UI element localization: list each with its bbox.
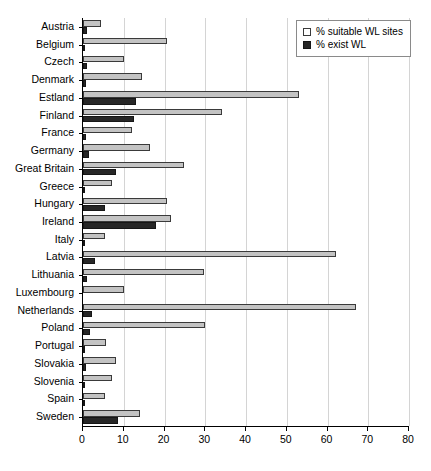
x-tick-label: 60 [321, 433, 333, 445]
category-label: Estland [39, 92, 74, 103]
bar-exist-wl [83, 222, 156, 228]
bar-exist-wl [83, 311, 92, 317]
bar-exist-wl [83, 276, 87, 282]
horizontal-bar-chart: AustriaBelgiumCzechDenmarkEstlandFinland… [0, 0, 431, 471]
bar-exist-wl [83, 98, 136, 104]
category-label: France [41, 127, 74, 138]
bar-group [83, 284, 409, 302]
bar-exist-wl [83, 258, 95, 264]
bar-exist-wl [83, 205, 105, 211]
x-tick-0 [82, 427, 83, 431]
chart-legend: % suitable WL sites % exist WL [296, 20, 411, 57]
bar-exist-wl [83, 400, 85, 406]
x-axis: 01020304050607080 [82, 427, 409, 451]
category-label: Netherlands [17, 305, 74, 316]
bar-suitable-wl-sites [83, 286, 124, 292]
category-label: Greece [40, 181, 74, 192]
bar-suitable-wl-sites [83, 73, 142, 79]
bar-suitable-wl-sites [83, 56, 124, 62]
x-tick-label: 40 [239, 433, 251, 445]
bar-group [83, 373, 409, 391]
bar-exist-wl [83, 169, 116, 175]
bar-group [83, 213, 409, 231]
bar-exist-wl [83, 151, 89, 157]
bar-exist-wl [83, 364, 86, 370]
category-label: Slovenia [34, 376, 74, 387]
bar-suitable-wl-sites [83, 180, 112, 186]
bar-group [83, 124, 409, 142]
category-label: Latvia [46, 251, 74, 262]
x-tick-30 [204, 427, 205, 431]
bar-exist-wl [83, 382, 85, 388]
bar-group [83, 142, 409, 160]
bar-suitable-wl-sites [83, 410, 140, 416]
x-tick-label: 20 [158, 433, 170, 445]
category-label: Lithuania [31, 269, 74, 280]
bar-exist-wl [83, 27, 87, 33]
bar-group [83, 408, 409, 426]
bar-suitable-wl-sites [83, 339, 106, 345]
category-label: Czech [44, 56, 74, 67]
category-label: Poland [41, 322, 74, 333]
x-tick-50 [286, 427, 287, 431]
dark-square-icon [303, 41, 311, 49]
x-tick-80 [408, 427, 409, 431]
category-label: Denmark [31, 74, 74, 85]
bar-group [83, 320, 409, 338]
category-label: Hungary [34, 198, 74, 209]
bar-group [83, 302, 409, 320]
bar-group [83, 391, 409, 409]
bar-suitable-wl-sites [83, 393, 105, 399]
x-tick-label: 70 [361, 433, 373, 445]
bar-suitable-wl-sites [83, 162, 184, 168]
bar-exist-wl [83, 417, 118, 423]
category-label: Slovakia [34, 358, 74, 369]
bar-suitable-wl-sites [83, 91, 299, 97]
category-label: Luxembourg [16, 287, 74, 298]
category-label: Great Britain [15, 163, 74, 174]
bar-suitable-wl-sites [83, 269, 204, 275]
bar-exist-wl [83, 45, 85, 51]
x-tick-label: 0 [79, 433, 85, 445]
bar-suitable-wl-sites [83, 20, 101, 26]
category-label: Austria [41, 21, 74, 32]
bar-exist-wl [83, 329, 90, 335]
bar-group [83, 195, 409, 213]
category-label: Ireland [42, 216, 74, 227]
x-tick-20 [164, 427, 165, 431]
bar-suitable-wl-sites [83, 304, 356, 310]
bar-exist-wl [83, 63, 87, 69]
legend-item-exist: % exist WL [303, 38, 403, 51]
legend-label: % suitable WL sites [316, 26, 403, 38]
bar-suitable-wl-sites [83, 357, 116, 363]
gridline-80 [409, 18, 410, 426]
bar-exist-wl [83, 80, 86, 86]
bar-exist-wl [83, 116, 134, 122]
category-axis-labels: AustriaBelgiumCzechDenmarkEstlandFinland… [0, 18, 78, 426]
category-tick [79, 293, 83, 294]
x-tick-label: 30 [198, 433, 210, 445]
category-label: Finland [40, 110, 74, 121]
bar-exist-wl [83, 134, 86, 140]
bar-group [83, 337, 409, 355]
bar-exist-wl [83, 240, 85, 246]
bar-group [83, 266, 409, 284]
bar-suitable-wl-sites [83, 109, 222, 115]
bar-suitable-wl-sites [83, 144, 150, 150]
bar-suitable-wl-sites [83, 322, 205, 328]
bar-exist-wl [83, 187, 85, 193]
bar-suitable-wl-sites [83, 251, 336, 257]
light-square-icon [303, 28, 311, 36]
x-tick-label: 10 [117, 433, 129, 445]
bar-suitable-wl-sites [83, 38, 167, 44]
x-tick-40 [245, 427, 246, 431]
bar-group [83, 355, 409, 373]
bar-group [83, 178, 409, 196]
category-label: Spain [47, 393, 74, 404]
plot-area [82, 18, 409, 427]
x-tick-10 [123, 427, 124, 431]
x-tick-label: 80 [402, 433, 414, 445]
bar-group [83, 71, 409, 89]
category-label: Portugal [35, 340, 74, 351]
legend-label: % exist WL [316, 39, 366, 51]
